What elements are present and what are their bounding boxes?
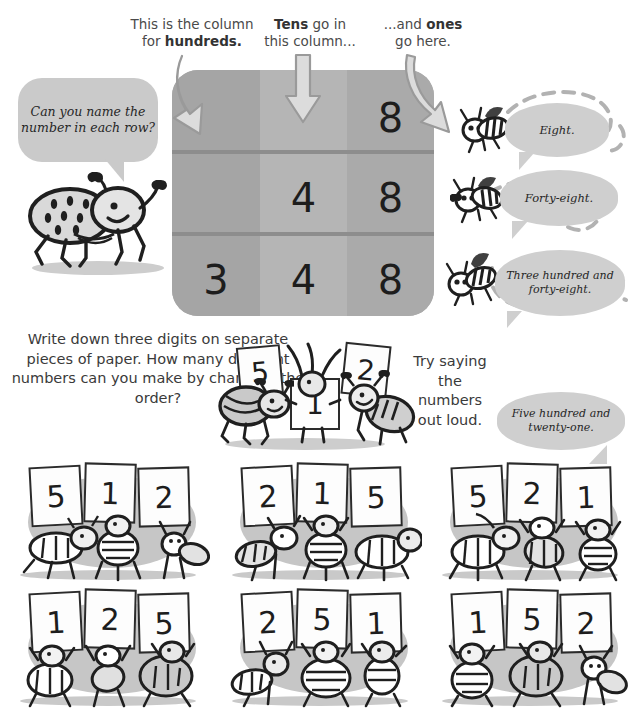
bubble-three-hundred-forty-eight: Three hundred and forty-eight. [495, 250, 625, 316]
group-251: 2 5 1 [222, 588, 422, 708]
caption-tens-bold: Tens [274, 16, 308, 32]
caption-tens-suffix: go in [308, 16, 346, 32]
bubble-tail [512, 221, 528, 239]
caption-ones-prefix: ...and [384, 16, 427, 32]
group-215: 2 1 5 [222, 462, 422, 582]
bubble-forty-eight-text: Forty-eight. [525, 191, 593, 206]
group-bugs [14, 508, 210, 582]
group-bugs [14, 634, 210, 708]
cell-r2-hundreds: 3 [172, 260, 260, 300]
caption-hundreds-line2-prefix: for [142, 33, 165, 49]
bubble-tail [507, 311, 522, 328]
bubble-forty-eight: Forty-eight. [500, 170, 618, 226]
caption-ones-bold: ones [426, 16, 462, 32]
bee-one [455, 104, 511, 154]
bubble-five-hundred-twenty-one: Five hundred and twenty-one. [497, 392, 625, 450]
bubble-can-you-name-text: Can you name the number in each row? [18, 104, 158, 137]
caption-hundreds-line2-bold: hundreds. [165, 33, 242, 49]
bubble-five-hundred-twenty-one-text: Five hundred and twenty-one. [497, 407, 625, 436]
caption-tens-line2: this column... [264, 33, 356, 49]
caption-hundreds-line1: This is the column [130, 16, 253, 32]
group-512: 5 1 2 [10, 462, 210, 582]
caption-tens: Tens go in this column... [255, 16, 365, 51]
bubble-three-hundred-forty-eight-text: Three hundred and forty-eight. [495, 269, 625, 298]
caption-ones: ...and ones go here. [368, 16, 478, 51]
bubble-eight-text: Eight. [539, 123, 574, 138]
bubble-can-you-name: Can you name the number in each row? [18, 78, 158, 162]
arrow-hundreds-icon [168, 52, 238, 142]
cell-r1-tens: 4 [260, 178, 347, 218]
table-row-divider-2 [172, 232, 434, 236]
cell-r1-ones: 8 [347, 178, 434, 218]
group-125: 1 2 5 [10, 588, 210, 708]
group-bugs [226, 508, 422, 582]
arrow-tens-icon [283, 52, 323, 128]
group-bugs [226, 634, 422, 708]
group-521: 5 2 1 [432, 462, 632, 582]
bubble-tail [519, 152, 535, 170]
caption-hundreds: This is the column for hundreds. [112, 16, 272, 51]
caption-ones-line2: go here. [395, 33, 451, 49]
bug-mid-right [338, 366, 420, 448]
bug-large-left [22, 168, 172, 276]
cell-r2-tens: 4 [260, 260, 347, 300]
cell-r2-ones: 8 [347, 260, 434, 300]
bee-two [450, 172, 506, 224]
group-bugs [436, 508, 632, 582]
group-bugs [436, 634, 632, 708]
table-row-divider-1 [172, 150, 434, 154]
bubble-eight: Eight. [505, 103, 609, 157]
group-152: 1 5 2 [432, 588, 632, 708]
bee-three [443, 250, 503, 306]
